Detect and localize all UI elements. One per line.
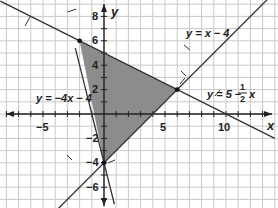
equation-3-prefix: y = 5 − [206, 88, 242, 100]
y-tick-label-neg4: −4 [86, 156, 99, 168]
y-tick-label-neg2: −2 [86, 132, 99, 144]
x-tick-label-10: 10 [218, 121, 230, 133]
vertex-point [175, 87, 180, 92]
direction-arrow-icon [25, 17, 30, 26]
equation-3-numerator: 1 [240, 82, 245, 92]
equation-3-suffix: x [248, 88, 256, 100]
direction-arrow-icon [68, 9, 76, 12]
y-tick-label-6: 6 [92, 34, 98, 46]
equation-label-y-eq-x-minus-4: y = x − 4 [185, 27, 229, 39]
x-axis-arrow-right-icon [264, 111, 272, 117]
vertex-point [77, 38, 82, 43]
line-y-x-4 [49, 0, 275, 208]
x-axis-arrow-left-icon [6, 111, 14, 117]
y-tick-label-2: 2 [92, 83, 98, 95]
x-axis-label: x [266, 118, 275, 133]
x-tick-label-neg5: −5 [36, 121, 49, 133]
y-axis-arrow-up-icon [101, 4, 107, 12]
equation-label-y-eq-neg4x-minus-4: y = −4x − 4 [35, 92, 92, 104]
y-tick-label-8: 8 [92, 10, 98, 22]
equation-3-denominator: 2 [240, 94, 245, 104]
graph: −5 5 10 8 6 4 2 −2 −4 −6 y x y = x − 4 y… [0, 0, 278, 208]
x-tick-label-5: 5 [160, 121, 166, 133]
y-tick-label-4: 4 [92, 59, 99, 71]
direction-arrow-icon [181, 71, 186, 76]
y-axis-label: y [110, 4, 119, 19]
vertex-point [102, 160, 107, 165]
y-tick-label-neg6: −6 [86, 181, 99, 193]
